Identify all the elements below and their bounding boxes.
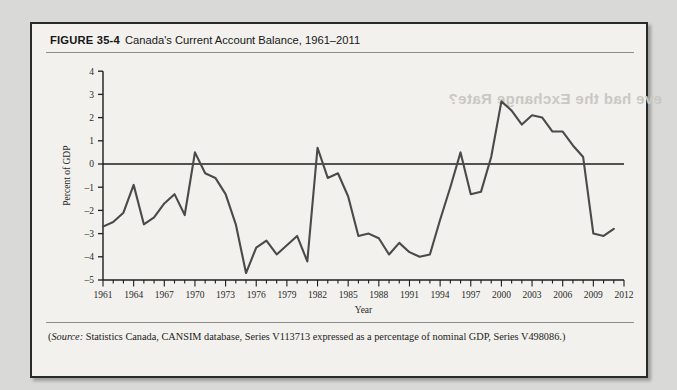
y-tick-label: –1 — [84, 183, 95, 193]
x-tick-label: 2012 — [615, 290, 634, 300]
y-tick-label: –3 — [84, 229, 95, 239]
y-tick-label: –4 — [84, 252, 95, 262]
y-tick-label: 3 — [89, 90, 94, 100]
y-tick-label: –2 — [84, 206, 95, 216]
x-tick-label: 1967 — [155, 290, 174, 300]
x-tick-label: 1994 — [431, 290, 450, 300]
x-tick-label: 2000 — [492, 290, 511, 300]
y-axis-title: Percent of GDP — [62, 146, 72, 206]
x-tick-label: 1961 — [94, 290, 113, 300]
x-tick-label: 2009 — [584, 290, 603, 300]
y-tick-label: –5 — [84, 275, 95, 285]
y-tick-label: 4 — [89, 67, 94, 77]
x-tick-label: 1973 — [216, 290, 235, 300]
x-tick-label: 1970 — [185, 290, 204, 300]
x-axis-title: Year — [355, 305, 373, 315]
source-label: Source: — [51, 331, 83, 342]
y-tick-label: 0 — [89, 159, 94, 169]
figure-panel: eve had the Exchange Rate? FIGURE 35-4Ca… — [30, 22, 648, 378]
chart-plot-area: 43210–1–2–3–4–51961196419671970197319761… — [32, 24, 650, 380]
x-tick-label: 1997 — [461, 290, 480, 300]
x-tick-label: 1979 — [277, 290, 296, 300]
x-tick-label: 1982 — [308, 290, 327, 300]
x-tick-label: 2003 — [523, 290, 542, 300]
x-tick-label: 1976 — [247, 290, 266, 300]
chart-svg: 43210–1–2–3–4–51961196419671970197319761… — [32, 24, 650, 324]
y-tick-label: 1 — [89, 136, 94, 146]
y-tick-label: 2 — [89, 113, 94, 123]
x-tick-label: 1985 — [339, 290, 358, 300]
source-divider — [46, 322, 634, 323]
x-tick-label: 1991 — [400, 290, 419, 300]
source-note: (Source: Statistics Canada, CANSIM datab… — [48, 330, 632, 344]
x-tick-label: 1988 — [369, 290, 388, 300]
x-tick-label: 1964 — [124, 290, 143, 300]
data-line — [103, 101, 614, 273]
x-tick-label: 2006 — [553, 290, 572, 300]
source-text: Statistics Canada, CANSIM database, Seri… — [83, 331, 565, 342]
